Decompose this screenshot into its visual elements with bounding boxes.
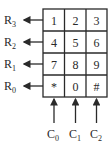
row-label-r2: R2 xyxy=(4,35,16,51)
key-9: 9 xyxy=(94,58,100,72)
row-label-r0: R0 xyxy=(4,79,16,95)
key-7: 7 xyxy=(51,58,57,72)
key-hash: # xyxy=(94,80,100,94)
row-label-r3: R3 xyxy=(4,13,16,29)
key-6: 6 xyxy=(94,36,100,50)
row-label-r1: R1 xyxy=(4,57,16,73)
key-4: 4 xyxy=(51,36,57,50)
key-2: 2 xyxy=(73,14,79,28)
col-label-c0: C0 xyxy=(47,127,59,143)
col-label-c1: C1 xyxy=(69,127,81,143)
col-label-c2: C2 xyxy=(90,127,102,143)
key-3: 3 xyxy=(94,14,100,28)
key-5: 5 xyxy=(73,36,79,50)
key-0: 0 xyxy=(73,80,79,94)
keypad-diagram: 1 2 3 4 5 6 7 8 9 * 0 # R3 R2 R1 R0 C0 C… xyxy=(0,0,111,146)
key-8: 8 xyxy=(73,58,79,72)
row-arrows xyxy=(24,20,43,86)
column-arrows xyxy=(54,99,97,123)
key-star: * xyxy=(51,80,57,94)
key-1: 1 xyxy=(51,14,57,28)
